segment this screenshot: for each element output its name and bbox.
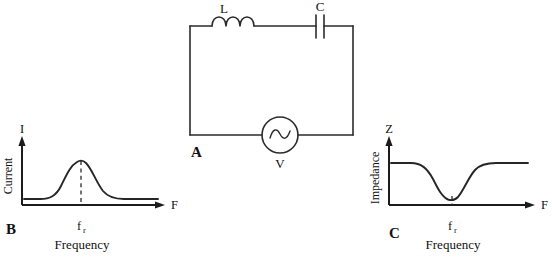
current-x-axis-title: Frequency bbox=[55, 237, 110, 252]
current-resonance-label: f bbox=[77, 219, 82, 233]
capacitor-label: C bbox=[316, 0, 325, 14]
impedance-resonance-sub: r bbox=[454, 225, 457, 235]
impedance-resonance-label: f bbox=[448, 219, 453, 233]
current-y-axis-title: Current bbox=[1, 157, 15, 194]
figure-root: L C V A I F Current f r Frequency B bbox=[0, 0, 552, 261]
figure-svg: L C V A I F Current f r Frequency B bbox=[0, 0, 552, 261]
ac-source-sine-icon bbox=[270, 130, 290, 138]
current-x-axis-arrowhead bbox=[155, 201, 165, 208]
current-y-axis-symbol: I bbox=[20, 122, 24, 136]
current-graph-panel: I F Current f r Frequency B bbox=[1, 122, 178, 252]
current-x-axis-symbol: F bbox=[171, 198, 178, 212]
impedance-x-axis-symbol: F bbox=[541, 198, 548, 212]
impedance-graph-panel: Z F Impedance f r Frequency C bbox=[368, 122, 548, 252]
inductor-label: L bbox=[220, 1, 228, 16]
source-label: V bbox=[275, 156, 285, 171]
impedance-resonance-curve bbox=[391, 163, 528, 200]
panel-label-c: C bbox=[389, 225, 400, 241]
impedance-x-axis-arrowhead bbox=[525, 201, 535, 208]
current-y-axis-arrowhead bbox=[18, 136, 25, 146]
panel-label-a: A bbox=[191, 144, 202, 160]
impedance-y-axis-title: Impedance bbox=[368, 152, 382, 205]
impedance-x-axis-title: Frequency bbox=[426, 237, 481, 252]
panel-label-b: B bbox=[6, 221, 16, 237]
impedance-y-axis-arrowhead bbox=[385, 136, 392, 146]
impedance-y-axis-symbol: Z bbox=[385, 122, 393, 136]
inductor-coil-icon bbox=[212, 17, 254, 26]
current-resonance-sub: r bbox=[83, 225, 86, 235]
circuit-panel: L C V A bbox=[190, 0, 353, 171]
current-resonance-curve bbox=[24, 161, 158, 199]
